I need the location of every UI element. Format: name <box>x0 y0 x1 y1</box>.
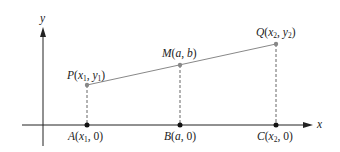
x-axis-arrow-icon <box>303 122 313 128</box>
label-m: M(a, b) <box>161 47 197 60</box>
midpoint-diagram: x y P(x1, y1) M(a, b) Q(x2, y2) A(x1, 0)… <box>0 0 340 152</box>
x-axis-label: x <box>316 118 323 130</box>
point-p <box>85 83 89 87</box>
point-c <box>274 123 279 128</box>
label-q: Q(x2, y2) <box>256 26 296 40</box>
label-b: B(a, 0) <box>164 130 196 143</box>
label-a: A(x1, 0) <box>67 130 103 144</box>
y-axis-label: y <box>39 12 46 25</box>
label-c: C(x2, 0) <box>257 130 293 144</box>
point-b <box>178 123 183 128</box>
y-axis-arrow-icon <box>40 27 46 37</box>
point-q <box>274 42 278 46</box>
point-a <box>85 123 90 128</box>
label-p: P(x1, y1) <box>66 69 105 83</box>
point-m <box>178 63 182 67</box>
